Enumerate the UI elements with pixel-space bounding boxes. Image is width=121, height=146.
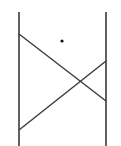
descending-diagonal — [19, 34, 106, 101]
ascending-diagonal — [19, 61, 106, 130]
crossed-lines-diagram — [0, 0, 121, 146]
dot-marker — [60, 39, 63, 42]
